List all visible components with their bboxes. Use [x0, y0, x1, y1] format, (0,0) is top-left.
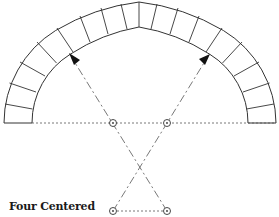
- diagram-title: Four Centered: [9, 200, 95, 213]
- four-centered-arch-diagram: [0, 0, 279, 217]
- left-radius-line: [72, 58, 167, 211]
- right-arrow-icon: [199, 54, 210, 65]
- left-arrow-icon: [69, 53, 80, 65]
- arch-intrados: [32, 27, 248, 123]
- right-radius-line: [113, 58, 207, 211]
- arch-extrados: [4, 2, 276, 123]
- voussoir-joints: [5, 2, 274, 109]
